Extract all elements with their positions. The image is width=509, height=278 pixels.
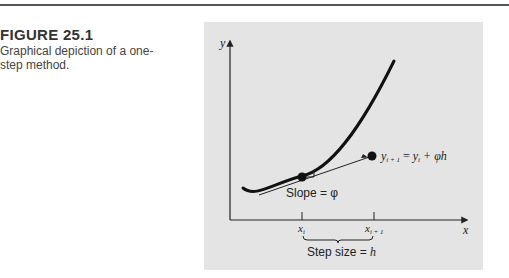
one-step-method-diagram: y x xi xi + 1 Step size = h yi + 1 = yi … bbox=[0, 0, 509, 278]
step-size-brace bbox=[303, 236, 373, 243]
x-axis-label: x bbox=[462, 223, 469, 237]
point-xi-yi bbox=[298, 173, 307, 182]
equation-label: yi + 1 = yi + φh bbox=[380, 149, 447, 164]
step-size-label: Step size = h bbox=[307, 245, 376, 259]
solution-curve bbox=[243, 61, 394, 191]
y-axis-label: y bbox=[219, 36, 226, 50]
tangent-arrowhead bbox=[361, 154, 368, 158]
tick-label-xi1: xi + 1 bbox=[364, 222, 384, 236]
slope-label: Slope = φ bbox=[286, 186, 338, 200]
tick-label-xi: xi bbox=[297, 222, 305, 236]
point-xi1-yi1 bbox=[368, 152, 377, 161]
